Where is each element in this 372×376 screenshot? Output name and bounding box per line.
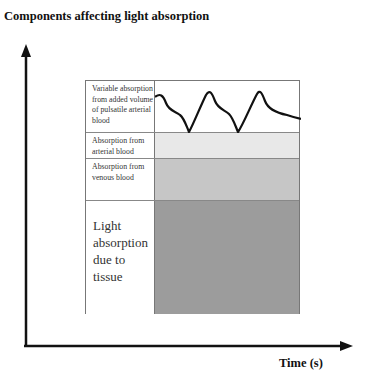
x-axis-title: Time (s) bbox=[279, 356, 323, 371]
layer-label: Absorption from venous blood bbox=[86, 159, 155, 200]
layer-label: Variable absorption from added volume of… bbox=[86, 81, 155, 132]
x-axis-arrow-icon bbox=[340, 341, 353, 351]
y-axis-title: Components affecting light absorption bbox=[4, 9, 209, 24]
layer-venous: Absorption from venous blood bbox=[86, 159, 299, 201]
absorption-stack: Variable absorption from added volume of… bbox=[85, 80, 300, 314]
pulsatile-waveform bbox=[155, 81, 301, 133]
layer-fill-arterial bbox=[155, 133, 299, 158]
layer-pulsatile: Variable absorption from added volume of… bbox=[86, 81, 299, 133]
layer-tissue: Light absorption due to tissue bbox=[86, 201, 299, 314]
layer-fill-venous bbox=[155, 159, 299, 200]
layer-arterial: Absorption from arterial blood bbox=[86, 133, 299, 159]
layer-fill-pulsatile bbox=[155, 81, 299, 132]
layer-label: Light absorption due to tissue bbox=[86, 201, 155, 314]
layer-fill-tissue bbox=[155, 201, 299, 314]
y-axis-arrow-icon bbox=[21, 44, 31, 57]
layer-label: Absorption from arterial blood bbox=[86, 133, 155, 158]
